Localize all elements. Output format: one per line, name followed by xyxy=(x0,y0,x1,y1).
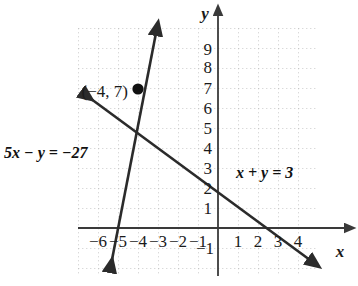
x-tick-neg4: −4 xyxy=(129,232,148,251)
y-tick-3: 3 xyxy=(204,159,213,178)
y-tick-4: 4 xyxy=(204,139,213,158)
y-axis-label: y xyxy=(199,4,209,23)
equation-label-left: 5x − y = −27 xyxy=(4,144,89,162)
x-tick-neg2: −2 xyxy=(169,232,187,251)
y-tick-9: 9 xyxy=(204,40,213,59)
x-tick-1: 1 xyxy=(234,232,243,251)
equation-label-right: x + y = 3 xyxy=(235,164,293,182)
x-tick-2: 2 xyxy=(254,232,263,251)
intersection-point-label: (−4, 7) xyxy=(82,82,128,101)
x-tick-neg6: −6 xyxy=(89,232,107,251)
x-axis-label: x xyxy=(335,242,345,261)
graph-canvas: 9 8 7 6 5 4 3 2 1 −1 −6 −5 −4 −3 −2 −1 1… xyxy=(0,0,358,286)
intersection-point-marker xyxy=(132,83,143,94)
x-tick-neg3: −3 xyxy=(149,232,167,251)
x-tick-neg5: −5 xyxy=(109,232,127,251)
y-tick-7: 7 xyxy=(204,79,213,98)
x-tick-4: 4 xyxy=(294,232,303,251)
y-tick-5: 5 xyxy=(204,119,213,138)
coordinate-graph-figure: 9 8 7 6 5 4 3 2 1 −1 −6 −5 −4 −3 −2 −1 1… xyxy=(0,0,358,286)
y-tick-2: 2 xyxy=(204,179,213,198)
x-tick-neg1: −1 xyxy=(189,232,207,251)
x-tick-3: 3 xyxy=(274,232,283,251)
y-tick-1: 1 xyxy=(204,199,213,218)
y-tick-8: 8 xyxy=(204,58,213,77)
y-tick-6: 6 xyxy=(204,99,213,118)
